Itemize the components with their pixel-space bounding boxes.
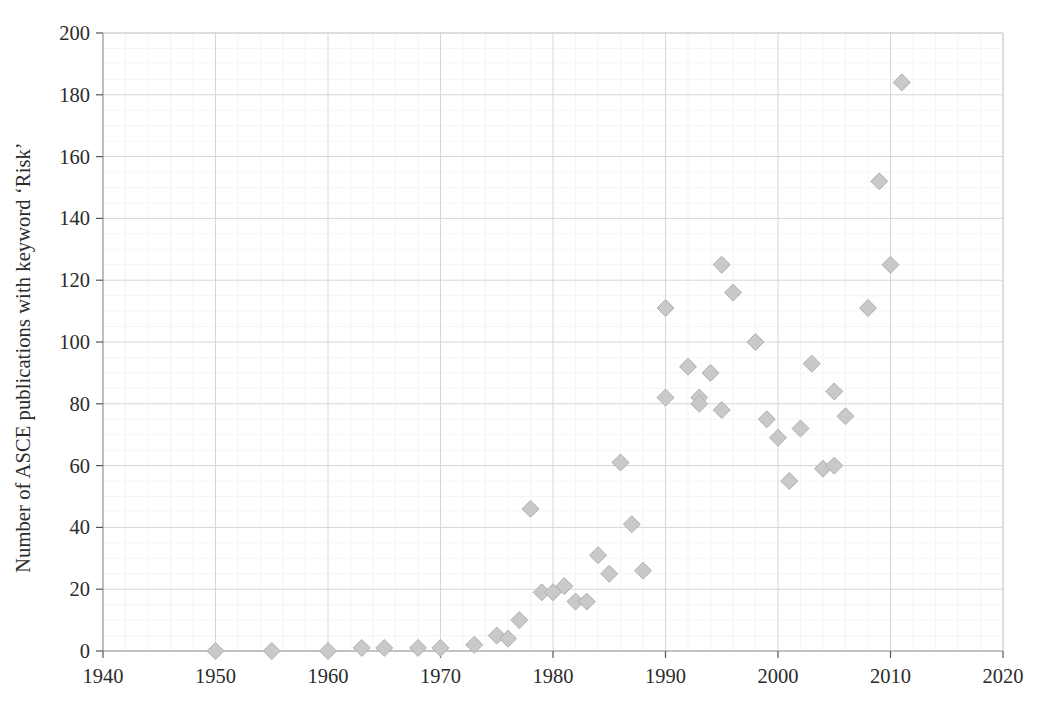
x-tick-label: 2000 bbox=[758, 665, 799, 688]
data-point bbox=[320, 643, 337, 660]
y-tick-label: 200 bbox=[59, 22, 90, 45]
data-point bbox=[376, 639, 393, 656]
data-point bbox=[770, 429, 787, 446]
x-tick-label: 1980 bbox=[533, 665, 574, 688]
x-tick-label: 1940 bbox=[83, 665, 124, 688]
y-tick-label: 180 bbox=[59, 83, 90, 106]
data-point bbox=[882, 256, 899, 273]
data-point bbox=[635, 562, 652, 579]
x-tick-label: 1990 bbox=[645, 665, 686, 688]
y-tick-label: 60 bbox=[70, 454, 91, 477]
data-point bbox=[511, 612, 528, 629]
data-point bbox=[837, 408, 854, 425]
data-point bbox=[353, 639, 370, 656]
data-point bbox=[702, 364, 719, 381]
data-point bbox=[713, 256, 730, 273]
scatter-chart: Number of ASCE publications with keyword… bbox=[0, 0, 1040, 715]
data-point bbox=[590, 547, 607, 564]
data-point bbox=[893, 74, 910, 91]
data-point bbox=[207, 643, 224, 660]
x-tick-label: 1960 bbox=[308, 665, 349, 688]
data-point bbox=[601, 565, 618, 582]
y-tick-label: 40 bbox=[70, 516, 91, 539]
data-point bbox=[410, 639, 427, 656]
x-tick-label: 2020 bbox=[983, 665, 1024, 688]
y-tick-label: 160 bbox=[59, 145, 90, 168]
data-point bbox=[860, 300, 877, 317]
data-points bbox=[207, 74, 910, 660]
y-tick-label: 140 bbox=[59, 207, 90, 230]
y-tick-label: 120 bbox=[59, 269, 90, 292]
x-tick-label: 1950 bbox=[195, 665, 236, 688]
plot-area bbox=[0, 0, 1040, 715]
data-point bbox=[522, 500, 539, 517]
y-tick-label: 100 bbox=[59, 331, 90, 354]
data-point bbox=[725, 284, 742, 301]
y-tick-label: 80 bbox=[70, 392, 91, 415]
data-point bbox=[758, 411, 775, 428]
data-point bbox=[432, 639, 449, 656]
y-tick-label: 0 bbox=[80, 640, 90, 663]
data-point bbox=[657, 300, 674, 317]
x-tick-label: 2010 bbox=[870, 665, 911, 688]
data-point bbox=[578, 593, 595, 610]
data-point bbox=[747, 334, 764, 351]
data-point bbox=[623, 516, 640, 533]
data-point bbox=[612, 454, 629, 471]
y-tick-label: 20 bbox=[70, 578, 91, 601]
data-point bbox=[781, 473, 798, 490]
data-point bbox=[263, 643, 280, 660]
data-point bbox=[826, 383, 843, 400]
x-tick-label: 1970 bbox=[420, 665, 461, 688]
axis-ticks bbox=[96, 33, 1003, 658]
